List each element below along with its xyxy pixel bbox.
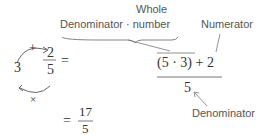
left-denominator: 5 [47,62,54,78]
label-denominator: Denominator [192,107,255,119]
expression-denominator: 5 [184,80,191,96]
label-denominator-whole-number: Denominator · number [60,18,170,30]
result-denominator: 5 [82,121,89,135]
plus-sign: + [29,40,36,56]
label-whole: Whole [136,3,167,15]
times-sign: × [30,93,36,105]
result-equals-sign: = [63,113,71,129]
left-numerator: 2 [47,45,54,61]
result-numerator: 17 [79,104,92,120]
label-numerator: Numerator [201,18,253,30]
whole-number: 3 [14,60,21,76]
expression-numerator: (5 · 3) + 2 [157,55,214,71]
equals-sign: = [61,53,69,69]
